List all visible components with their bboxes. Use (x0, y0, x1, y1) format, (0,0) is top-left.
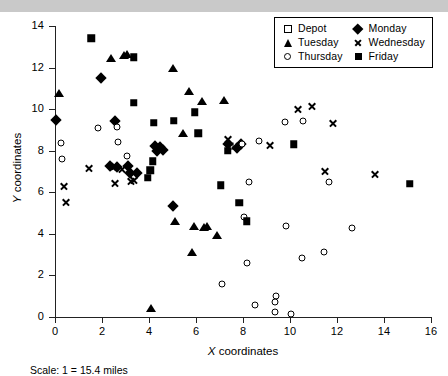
legend-symbol-thursday (281, 53, 294, 60)
x-axis-label-italic: X (208, 345, 216, 357)
y-tick-6 (49, 192, 55, 193)
data-point-wednesday (329, 119, 338, 128)
x-tick-label-6: 6 (181, 325, 211, 337)
open-circle-icon (245, 178, 252, 185)
data-point-friday (146, 167, 154, 175)
data-point-friday (224, 147, 232, 155)
legend-label-friday: Friday (369, 50, 399, 63)
open-circle-icon (284, 53, 291, 60)
data-point-friday (150, 119, 158, 127)
y-tick-10 (49, 109, 55, 110)
data-point-tuesday (146, 304, 156, 312)
cross-icon (61, 198, 70, 207)
filled-square-icon (149, 157, 157, 165)
filled-square-icon (195, 129, 203, 137)
filled-triangle-icon (212, 231, 222, 239)
x-tick-14 (384, 317, 385, 323)
data-point-tuesday (219, 96, 229, 104)
data-point-thursday (325, 178, 332, 185)
x-tick-label-16: 16 (416, 325, 446, 337)
filled-triangle-icon (168, 64, 178, 72)
x-tick-label-4: 4 (134, 325, 164, 337)
data-point-wednesday (321, 167, 330, 176)
y-axis-label-rest: coordinates (11, 133, 23, 196)
y-tick-0 (49, 317, 55, 318)
y-tick-2 (49, 275, 55, 276)
legend-entry-monday: Monday (352, 22, 425, 35)
legend-symbol-monday (352, 25, 365, 33)
y-tick-label-12: 12 (16, 61, 44, 73)
data-point-friday (195, 129, 203, 137)
data-point-thursday (251, 301, 258, 308)
filled-square-icon (406, 180, 414, 188)
legend-entry-thursday: Thursday (281, 50, 343, 63)
data-point-monday (153, 147, 161, 155)
legend-symbol-tuesday (281, 39, 294, 47)
cross-icon (110, 178, 119, 187)
legend-symbol-wednesday (352, 39, 365, 47)
data-point-tuesday (189, 222, 199, 230)
cross-icon (329, 119, 338, 128)
data-point-wednesday (110, 178, 119, 187)
y-tick-14 (49, 26, 55, 27)
data-point-thursday (238, 141, 245, 148)
data-point-friday (191, 109, 199, 117)
x-tick-0 (55, 317, 56, 323)
cross-icon (354, 39, 362, 47)
data-point-friday (170, 117, 178, 125)
data-point-tuesday (54, 89, 64, 97)
open-circle-icon (271, 308, 278, 315)
y-tick-12 (49, 68, 55, 69)
cross-icon (294, 105, 303, 114)
open-circle-icon (325, 178, 332, 185)
legend-label-depot: Depot (298, 22, 327, 35)
filled-triangle-icon (202, 222, 212, 230)
x-tick-label-2: 2 (87, 325, 117, 337)
data-point-tuesday (178, 129, 188, 137)
y-axis-line (55, 26, 56, 318)
legend-entry-friday: Friday (352, 50, 425, 63)
data-point-tuesday (187, 248, 197, 256)
data-point-thursday (245, 178, 252, 185)
open-square-icon (284, 25, 292, 33)
filled-square-icon (88, 35, 96, 43)
data-point-tuesday (170, 217, 180, 225)
data-point-tuesday (168, 64, 178, 72)
filled-square-icon (170, 117, 178, 125)
y-tick-8 (49, 151, 55, 152)
cross-icon (266, 141, 275, 150)
legend-symbol-depot (281, 25, 294, 33)
filled-triangle-icon (170, 217, 180, 225)
data-point-tuesday (106, 54, 116, 62)
x-axis-label: X coordinates (55, 345, 431, 357)
y-tick-4 (49, 234, 55, 235)
data-point-friday (149, 157, 157, 165)
data-point-thursday (114, 123, 121, 130)
data-point-thursday (218, 280, 225, 287)
x-tick-label-10: 10 (275, 325, 305, 337)
data-point-tuesday (184, 87, 194, 95)
legend-symbol-friday (352, 53, 365, 60)
filled-diamond-icon (353, 23, 364, 34)
legend-label-thursday: Thursday (298, 50, 343, 63)
data-point-thursday (349, 224, 356, 231)
legend-label-monday: Monday (369, 22, 407, 35)
filled-square-icon (144, 174, 152, 182)
x-tick-6 (196, 317, 197, 323)
open-circle-icon (282, 118, 289, 125)
open-circle-icon (321, 248, 328, 255)
filled-triangle-icon (184, 87, 194, 95)
filled-square-icon (217, 181, 225, 189)
filled-square-icon (146, 167, 154, 175)
open-circle-icon (95, 124, 102, 131)
x-tick-2 (102, 317, 103, 323)
x-tick-10 (290, 317, 291, 323)
data-point-monday (97, 74, 105, 82)
filled-triangle-icon (189, 222, 199, 230)
cross-icon (370, 170, 379, 179)
open-circle-icon (218, 280, 225, 287)
cross-icon (321, 167, 330, 176)
filled-diamond-icon (51, 114, 62, 125)
scatter-plot-figure: 0246810121416 02468101214 X coordinates … (0, 12, 448, 376)
data-point-thursday (299, 117, 306, 124)
